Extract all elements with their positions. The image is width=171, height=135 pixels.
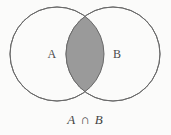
figure-caption: A ∩ B [0, 112, 171, 128]
set-b-label: B [113, 48, 121, 60]
venn-diagram-figure: A B A ∩ B [0, 0, 171, 135]
set-a-label: A [48, 48, 57, 60]
